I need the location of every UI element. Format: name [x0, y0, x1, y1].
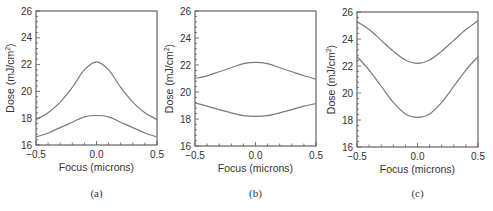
y-tick-label: 20: [21, 86, 33, 97]
tick-labels: 161820222426−0.50.00.5: [342, 7, 486, 163]
y-axis-label: Dose (mJ/cm2): [4, 43, 16, 112]
curve-upper: [195, 62, 316, 79]
y-tick-label: 22: [21, 59, 33, 70]
y-tick-label: 26: [180, 6, 192, 17]
x-tick-label: −0.5: [26, 149, 46, 160]
axes-frame: [357, 12, 478, 147]
data-curves: [36, 62, 157, 137]
x-tick-label: 0.0: [90, 149, 104, 160]
tick-labels: 161820222426−0.50.00.5: [180, 6, 324, 162]
y-tick-label: 18: [342, 115, 354, 126]
y-tick-label: 24: [342, 34, 354, 45]
y-tick-label: 20: [342, 88, 354, 99]
y-axis-label-main: Dose (mJ/cm: [163, 51, 175, 113]
chart-panel-a: 161820222426−0.50.00.5 Focus (microns) D…: [4, 6, 164, 201]
x-tick-label: 0.0: [411, 151, 425, 162]
x-tick-label: 0.0: [249, 150, 263, 161]
curve-upper: [36, 62, 157, 120]
x-axis-label: Focus (microns): [380, 163, 455, 175]
y-axis-label: Dose (mJ/cm2): [325, 45, 337, 114]
chart-panel-c: 161820222426−0.50.00.5 Focus (microns) D…: [325, 7, 485, 201]
axes-frame: [36, 11, 157, 145]
y-axis-label-end: ): [325, 45, 337, 49]
y-axis-label: Dose (mJ/cm2): [163, 44, 175, 113]
data-curves: [195, 62, 316, 116]
panel-caption: (c): [411, 187, 424, 200]
y-axis-label-end: ): [163, 44, 175, 48]
y-tick-label: 22: [180, 60, 192, 71]
x-tick-label: 0.5: [309, 150, 323, 161]
axes-frame: [195, 11, 316, 146]
curve-upper: [357, 21, 478, 64]
y-axis-label-end: ): [4, 43, 16, 47]
y-axis-label-main: Dose (mJ/cm: [4, 51, 16, 113]
x-tick-label: −0.5: [185, 150, 205, 161]
x-tick-label: −0.5: [347, 151, 367, 162]
y-tick-label: 18: [21, 113, 33, 124]
data-curves: [357, 21, 478, 118]
plot-frame: [195, 11, 316, 146]
y-tick-label: 26: [342, 7, 354, 18]
x-axis-label: Focus (microns): [59, 161, 134, 173]
plot-frame: [36, 11, 157, 145]
figure-canvas: 161820222426−0.50.00.5 Focus (microns) D…: [0, 0, 493, 211]
y-tick-label: 18: [180, 114, 192, 125]
curve-lower: [195, 103, 316, 117]
x-tick-label: 0.5: [471, 151, 485, 162]
y-tick-label: 22: [342, 61, 354, 72]
tick-labels: 161820222426−0.50.00.5: [21, 6, 165, 161]
figure: 161820222426−0.50.00.5 Focus (microns) D…: [0, 0, 493, 211]
panel-caption: (b): [249, 187, 262, 200]
y-tick-label: 24: [180, 33, 192, 44]
y-tick-label: 24: [21, 32, 33, 43]
chart-panel-b: 161820222426−0.50.00.5 Focus (microns) D…: [163, 6, 323, 201]
x-axis-label: Focus (microns): [218, 162, 293, 174]
y-tick-label: 20: [180, 87, 192, 98]
plot-frame: [357, 12, 478, 147]
y-axis-label-main: Dose (mJ/cm: [325, 52, 337, 114]
x-tick-label: 0.5: [150, 149, 164, 160]
curve-lower: [36, 116, 157, 137]
curve-lower: [357, 57, 478, 118]
panel-caption: (a): [90, 187, 103, 200]
y-tick-label: 26: [21, 6, 33, 17]
